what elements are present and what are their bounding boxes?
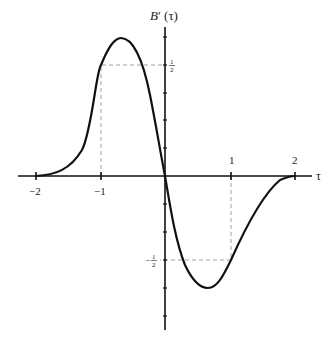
guide-negative bbox=[160, 176, 231, 260]
svg-text:1: 1 bbox=[170, 58, 174, 66]
y-axis-label: B′ (τ) bbox=[150, 8, 178, 23]
x-axis-label: τ bbox=[316, 169, 321, 183]
chart-canvas: B′ (τ) τ −2 −1 1 2 1 2 − 1 2 bbox=[0, 0, 334, 341]
x-tick-label-m2: −2 bbox=[29, 185, 41, 197]
svg-text:−: − bbox=[145, 255, 150, 265]
x-tick-label-m1: −1 bbox=[94, 185, 106, 197]
svg-text:2: 2 bbox=[170, 66, 174, 74]
x-tick-label-p2: 2 bbox=[292, 154, 298, 166]
y-tick-label-half: 1 2 bbox=[169, 58, 175, 74]
svg-text:2: 2 bbox=[152, 261, 156, 269]
svg-text:1: 1 bbox=[152, 253, 156, 261]
y-tick-label-neg-half: − 1 2 bbox=[145, 253, 157, 269]
x-tick-label-p1: 1 bbox=[229, 154, 235, 166]
guide-lines bbox=[101, 65, 231, 260]
